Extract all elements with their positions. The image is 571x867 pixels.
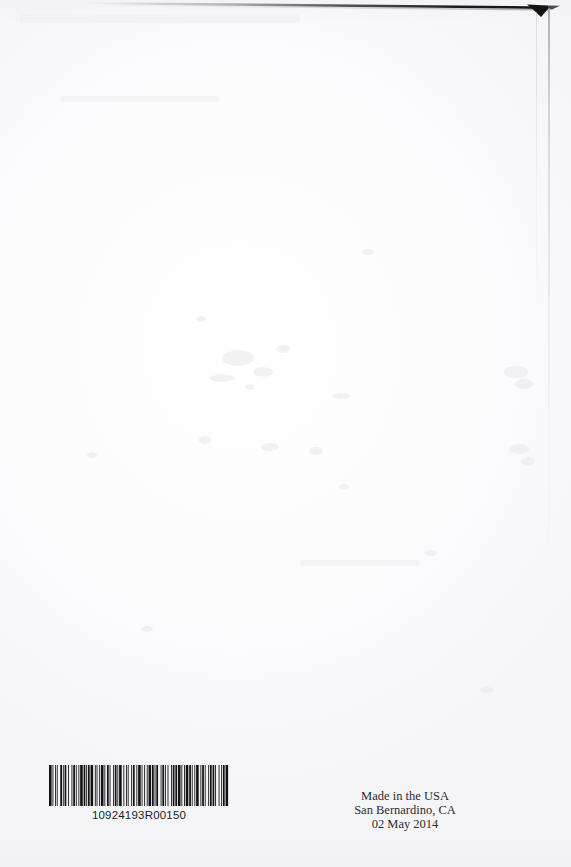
imprint-line-made-in: Made in the USA xyxy=(325,789,485,803)
barcode-block: 10924193R00150 xyxy=(49,765,229,822)
scan-edge-top-artifact xyxy=(0,0,571,22)
scan-noise-overlay xyxy=(0,0,571,867)
paper-tone-overlay xyxy=(0,0,571,867)
scan-edge-right-artifact-secondary xyxy=(536,12,537,312)
scan-edge-right-artifact xyxy=(548,8,550,568)
imprint-line-city: San Bernardino, CA xyxy=(325,803,485,817)
imprint-line-date: 02 May 2014 xyxy=(325,817,485,831)
imprint-block: Made in the USA San Bernardino, CA 02 Ma… xyxy=(325,789,485,832)
scanned-page: 10924193R00150 Made in the USA San Berna… xyxy=(0,0,571,867)
paper-tone-top xyxy=(0,0,571,26)
barcode-icon xyxy=(49,765,229,806)
barcode-number-label: 10924193R00150 xyxy=(49,808,229,822)
paper-tone-bottom xyxy=(0,827,571,867)
